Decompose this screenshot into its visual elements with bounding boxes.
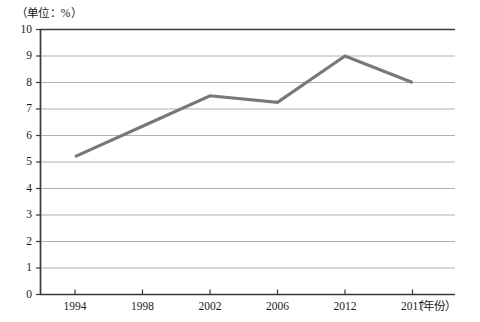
y-tick-label: 4	[6, 183, 32, 195]
y-tick-label: 9	[6, 50, 32, 62]
y-tick-label: 5	[6, 156, 32, 168]
x-tick-label: 2012	[334, 301, 357, 313]
y-axis-ticks	[36, 30, 40, 295]
x-tick-label: 2006	[266, 301, 289, 313]
y-tick-label: 10	[6, 24, 32, 36]
x-tick-label: 2002	[199, 301, 222, 313]
x-axis-caption: （年份）	[412, 301, 456, 313]
y-tick-label: 1	[6, 262, 32, 274]
y-tick-label: 7	[6, 103, 32, 115]
y-tick-label: 6	[6, 130, 32, 142]
data-series-line	[75, 56, 413, 157]
line-chart: （单位：%） 012345678910 19941998200220062012…	[0, 0, 480, 322]
gridlines	[40, 30, 455, 269]
x-tick-label: 1998	[131, 301, 154, 313]
y-tick-label: 2	[6, 236, 32, 248]
plot-area	[0, 0, 480, 322]
x-tick-label: 1994	[64, 301, 87, 313]
y-tick-label: 3	[6, 209, 32, 221]
y-tick-label: 8	[6, 77, 32, 89]
y-tick-label: 0	[6, 289, 32, 301]
